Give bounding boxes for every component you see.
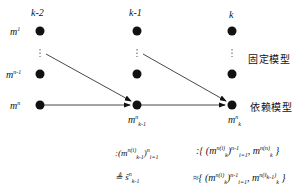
node-k-2-mn xyxy=(36,101,45,110)
node-k-mn-1 xyxy=(228,70,237,79)
row-label-mn: mn xyxy=(10,100,20,111)
node-k-m1 xyxy=(228,27,237,36)
node-k-2-m1 xyxy=(36,27,45,36)
diagram-canvas xyxy=(0,0,299,196)
arrow-diag-2 xyxy=(143,54,226,101)
node-label-mid: mnk-1 xyxy=(128,114,146,127)
node-k-1-mn xyxy=(133,101,142,110)
formula-right-1: :{ (mn(i)k)n-1i=1, mn(n)k } xyxy=(196,145,279,158)
formula-right-2: ≈{ (mn(i)k)n-1i=1, mn(ŝk-1)k } xyxy=(193,172,285,185)
dependent-model-label: 依赖模型 xyxy=(250,99,292,114)
column-label-k-1: k-1 xyxy=(129,8,142,18)
formula-left-2: ≜ ŝnk-1 xyxy=(115,171,139,184)
node-k-2-mn-1 xyxy=(36,70,45,79)
fixed-model-label: 固定模型 xyxy=(248,51,290,66)
column-label-k: k xyxy=(229,10,233,20)
column-label-k-2: k-2 xyxy=(31,8,44,18)
node-label-right: mnk xyxy=(228,114,241,127)
arrow-diag-1 xyxy=(46,54,131,101)
node-k-1-m1 xyxy=(133,27,142,36)
formula-left-1: :(mn(i)k-1)ni=1 xyxy=(115,147,159,160)
row-label-m1: m1 xyxy=(10,26,20,37)
node-k-1-mn-1 xyxy=(133,70,142,79)
node-k-mn xyxy=(228,101,237,110)
row-label-mn-1: mn-1 xyxy=(6,69,21,80)
